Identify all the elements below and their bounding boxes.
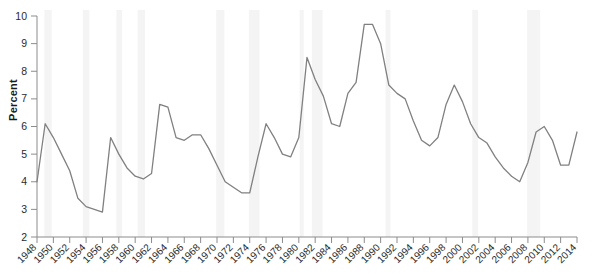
- recession-band: [472, 10, 478, 237]
- y-axis-tick-label: 5: [21, 148, 27, 160]
- recession-band: [386, 10, 391, 237]
- x-axis-tick-label: 2014: [555, 241, 579, 265]
- recession-band: [527, 10, 540, 237]
- y-axis-tick-label: 6: [21, 120, 27, 132]
- recession-band: [116, 10, 122, 237]
- y-axis-group: 2345678910: [15, 10, 37, 243]
- recession-band: [249, 10, 260, 237]
- y-axis-tick-label: 7: [21, 92, 27, 104]
- recession-shading-group: [44, 10, 540, 237]
- recession-band: [138, 10, 145, 237]
- y-axis-tick-label: 9: [21, 37, 27, 49]
- recession-band: [83, 10, 90, 237]
- y-axis-tick-label: 10: [15, 10, 27, 22]
- recession-band: [312, 10, 323, 237]
- unemployment-line-chart: Percent 2345678910 194819501952195419561…: [0, 0, 602, 280]
- y-axis-tick-label: 2: [21, 231, 27, 243]
- y-axis-tick-label: 3: [21, 203, 27, 215]
- plot-area: 2345678910 19481950195219541956195819601…: [0, 0, 602, 280]
- recession-band: [216, 10, 224, 237]
- y-axis-tick-label: 8: [21, 65, 27, 77]
- y-axis-tick-label: 4: [21, 175, 27, 187]
- x-axis-group: 1948195019521954195619581960196219641966…: [15, 237, 579, 265]
